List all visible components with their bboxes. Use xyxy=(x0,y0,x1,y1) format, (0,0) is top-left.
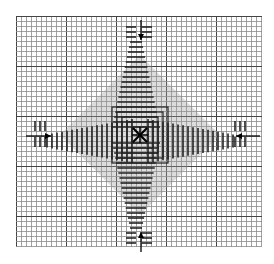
bottom-arrow-icon xyxy=(138,232,144,252)
needlework-chart xyxy=(0,0,274,264)
center-marker-icon xyxy=(132,127,148,143)
